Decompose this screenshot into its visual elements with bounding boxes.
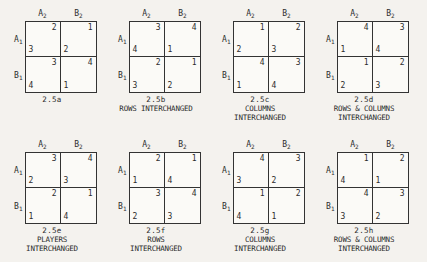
row-player-payoff: 4 [341, 176, 346, 186]
matrix-cell: 41 [61, 57, 96, 92]
row-player-payoff: 4 [272, 81, 277, 91]
col-strategy-label-subscript: 2 [147, 12, 151, 19]
figure-id: 2.5e [26, 226, 78, 235]
col-strategy-label-subscript: 2 [391, 12, 395, 19]
matrix-area: A1B1A2B232432114 [8, 139, 97, 224]
grid-column: A2B232432114 [25, 139, 97, 224]
column-player-payoff: 3 [296, 154, 301, 164]
figure-caption: 2.5dROWS & COLUMNSINTERCHANGED [334, 95, 394, 122]
payoff-matrix: 14214332 [337, 152, 409, 224]
col-strategy-label: A2 [142, 140, 150, 149]
row-player-payoff: 2 [64, 45, 69, 55]
row-label-b1: B1 [8, 188, 25, 224]
matrix-cell: 34 [269, 57, 304, 92]
row-label-a1: A1 [112, 21, 129, 57]
figure-id: 2.5c [234, 95, 286, 104]
col-strategy-label-subscript: 2 [79, 143, 83, 150]
row-strategy-label-subscript: 1 [19, 205, 23, 212]
figure-id: 2.5h [334, 226, 394, 235]
row-player-payoff: 2 [133, 212, 138, 222]
row-strategy-label: B1 [118, 71, 126, 80]
row-strategy-label-subscript: 1 [331, 38, 335, 45]
col-label-a2: A2 [25, 139, 61, 152]
column-player-payoff: 4 [364, 23, 369, 33]
column-player-payoff: 1 [88, 189, 93, 199]
col-strategy-label-subscript: 2 [147, 143, 151, 150]
matrix-cell: 21 [26, 188, 61, 223]
figure-description-line: INTERCHANGED [130, 244, 182, 253]
col-strategy-label: A2 [350, 140, 358, 149]
column-player-payoff: 2 [296, 189, 301, 199]
figure-id: 2.5a [42, 95, 61, 104]
row-strategy-label: B1 [326, 202, 334, 211]
payoff-matrix: 32432114 [25, 152, 97, 224]
matrix-cell: 34 [26, 57, 61, 92]
column-player-payoff: 3 [52, 154, 57, 164]
col-strategy-label-subscript: 2 [79, 12, 83, 19]
row-strategy-label: B1 [222, 71, 230, 80]
col-label-a2: A2 [233, 8, 269, 21]
col-strategy-label-subscript: 2 [391, 143, 395, 150]
col-strategy-label: B2 [386, 140, 394, 149]
row-strategy-label-subscript: 1 [123, 74, 127, 81]
matrix-cell: 23 [269, 22, 304, 57]
column-player-payoff: 3 [296, 58, 301, 68]
row-strategy-label-subscript: 1 [19, 169, 23, 176]
col-strategy-label: A2 [246, 140, 254, 149]
figure-block-2-5g: A1B1A2B2433214212.5gCOLUMNSINTERCHANGED [208, 131, 312, 253]
column-label-row: A2B2 [337, 139, 409, 152]
col-label-b2: B2 [61, 8, 97, 21]
col-strategy-label: A2 [142, 9, 150, 18]
row-player-payoff: 2 [376, 212, 381, 222]
column-player-payoff: 2 [156, 58, 161, 68]
grid-column: A2B214214332 [337, 139, 409, 224]
column-player-payoff: 4 [192, 189, 197, 199]
col-label-a2: A2 [233, 139, 269, 152]
col-strategy-label: A2 [246, 9, 254, 18]
matrix-cell: 32 [130, 188, 165, 223]
matrix-cell: 43 [165, 188, 200, 223]
figure-description-line: INTERCHANGED [334, 113, 394, 122]
matrix-cell: 41 [234, 57, 269, 92]
matrix-area: A1B1A2B212234134 [216, 8, 305, 93]
row-strategy-label-subscript: 1 [227, 205, 231, 212]
row-player-payoff: 1 [272, 212, 277, 222]
col-strategy-label-subscript: 2 [287, 143, 291, 150]
row-player-payoff: 2 [29, 176, 34, 186]
figure-description-line: INTERCHANGED [26, 244, 78, 253]
row-label-b1: B1 [320, 188, 337, 224]
row-label-a1: A1 [8, 21, 25, 57]
column-player-payoff: 2 [156, 154, 161, 164]
column-player-payoff: 4 [260, 154, 265, 164]
row-strategy-label-subscript: 1 [331, 205, 335, 212]
matrix-cell: 32 [373, 188, 408, 223]
column-player-payoff: 4 [192, 23, 197, 33]
row-player-payoff: 3 [64, 176, 69, 186]
column-player-payoff: 4 [260, 58, 265, 68]
figure-block-2-5e: A1B1A2B2324321142.5ePLAYERSINTERCHANGED [0, 131, 104, 253]
column-player-payoff: 1 [364, 154, 369, 164]
column-player-payoff: 3 [52, 58, 57, 68]
figure-block-2-5a: A1B1A2B2231234412.5a [0, 0, 104, 104]
figure-description-line: ROWS INTERCHANGED [119, 104, 192, 113]
matrix-cell: 21 [373, 153, 408, 188]
column-player-payoff: 1 [364, 58, 369, 68]
row-strategy-label: A1 [326, 35, 334, 44]
grid-column: A2B212234134 [233, 8, 305, 93]
col-strategy-label-subscript: 2 [251, 143, 255, 150]
matrix-cell: 21 [130, 153, 165, 188]
row-label-column: A1B1 [320, 139, 337, 224]
payoff-matrix: 23123441 [25, 21, 97, 93]
col-label-b2: B2 [269, 139, 305, 152]
matrix-cell: 23 [26, 22, 61, 57]
row-player-payoff: 1 [168, 45, 173, 55]
figure-description-line: ROWS & COLUMNS [334, 235, 394, 244]
row-label-a1: A1 [8, 152, 25, 188]
figure-description-line: INTERCHANGED [234, 113, 286, 122]
matrix-area: A1B1A2B221143243 [112, 139, 201, 224]
matrix-cell: 14 [338, 153, 373, 188]
row-label-a1: A1 [216, 152, 233, 188]
row-player-payoff: 4 [29, 81, 34, 91]
row-player-payoff: 1 [376, 176, 381, 186]
figure-id: 2.5b [119, 95, 192, 104]
